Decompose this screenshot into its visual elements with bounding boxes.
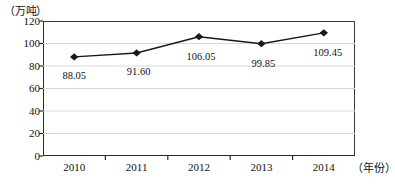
y-axis-tick-label: 0 xyxy=(0,151,40,162)
x-axis-unit-label: （年份） xyxy=(352,159,395,175)
x-axis-tick-label: 2013 xyxy=(250,162,272,173)
y-axis-tick-label: 80 xyxy=(0,61,40,72)
x-axis-tick-label: 2012 xyxy=(188,162,210,173)
plot-area-frame xyxy=(43,21,355,156)
y-axis-tick-label: 40 xyxy=(0,106,40,117)
x-axis-tick-label: 2011 xyxy=(126,162,148,173)
data-point-value-label: 91.60 xyxy=(127,66,151,77)
y-axis-tick-labels: 120100806040200 xyxy=(0,0,40,185)
data-point-value-label: 99.85 xyxy=(252,58,276,69)
y-axis-tick-label: 100 xyxy=(0,38,40,49)
x-axis-ticks xyxy=(105,156,292,160)
x-axis-tick-label: 2010 xyxy=(63,162,85,173)
data-point-value-label: 106.05 xyxy=(187,51,216,62)
y-axis-tick-label: 60 xyxy=(0,83,40,94)
data-point-value-label: 109.45 xyxy=(313,47,342,58)
y-axis-tick-label: 20 xyxy=(0,128,40,139)
data-point-value-label: 88.05 xyxy=(62,70,86,81)
y-axis-tick-label: 120 xyxy=(0,16,40,27)
line-chart: （万吨） 120100806040200 2010201120122013201… xyxy=(0,0,395,185)
x-axis-tick-label: 2014 xyxy=(313,162,335,173)
